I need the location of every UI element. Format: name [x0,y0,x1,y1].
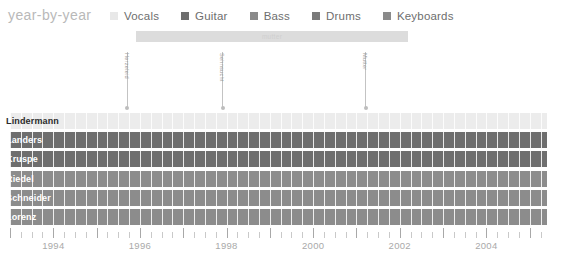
grid-tick [302,113,303,129]
grid-tick [497,151,498,167]
grid-tick [86,209,87,225]
grid-tick [443,209,444,225]
timeline-bar[interactable] [10,151,547,167]
axis-label: 1996 [129,240,151,251]
grid-tick [75,132,76,148]
grid-tick [281,113,282,129]
grid-tick [389,171,390,187]
legend: VocalsGuitarBassDrumsKeyboards [110,9,476,23]
grid-tick [75,171,76,187]
grid-tick [205,113,206,129]
timeline-bar[interactable] [10,113,547,129]
grid-tick [356,190,357,206]
grid-tick [42,209,43,225]
timeline-bar[interactable] [10,209,547,225]
grid-tick [378,171,379,187]
grid-tick [367,132,368,148]
grid-tick [162,209,163,225]
grid-tick [86,190,87,206]
grid-tick [42,171,43,187]
grid-tick [508,151,509,167]
grid-tick [324,132,325,148]
album-marker-label: Herzeleid [124,53,130,79]
grid-tick [367,209,368,225]
grid-tick [530,209,531,225]
timeline-row[interactable] [0,190,565,206]
timeline-bar[interactable] [10,190,547,206]
grid-tick [151,132,152,148]
grid-tick [432,190,433,206]
grid-tick [205,132,206,148]
chart-header: year-by-year VocalsGuitarBassDrumsKeyboa… [0,0,565,28]
axis-tick [118,232,119,238]
grid-tick [356,151,357,167]
grid-tick [172,209,173,225]
grid-tick [129,190,130,206]
axis-tick [162,232,163,238]
grid-tick [443,132,444,148]
grid-tick [140,113,141,129]
grid-tick [64,113,65,129]
grid-tick [367,113,368,129]
grid-tick [454,190,455,206]
grid-tick [530,171,531,187]
grid-tick [270,151,271,167]
grid-tick [530,132,531,148]
grid-tick [302,209,303,225]
timeline-bar[interactable] [10,171,547,187]
grid-tick [140,171,141,187]
grid-tick [432,151,433,167]
grid-tick [400,209,401,225]
axis-tick [519,232,520,238]
grid-tick [465,132,466,148]
grid-tick [291,132,292,148]
grid-tick [335,171,336,187]
grid-tick [443,113,444,129]
grid-tick [541,113,542,129]
grid-tick [97,113,98,129]
grid-tick [227,190,228,206]
timeline-row[interactable] [0,151,565,167]
grid-tick [476,132,477,148]
axis-tick [32,232,33,238]
grid-tick [237,209,238,225]
grid-tick [476,209,477,225]
grid-tick [541,209,542,225]
grid-tick [411,190,412,206]
album-span-bar: mutter [136,31,409,42]
grid-tick [129,171,130,187]
grid-tick [389,209,390,225]
grid-tick [519,151,520,167]
timeline-row[interactable] [0,171,565,187]
axis-tick [497,232,498,238]
axis-tick [541,232,542,238]
grid-tick [107,151,108,167]
grid-tick [443,190,444,206]
grid-tick [53,151,54,167]
grid-tick [291,113,292,129]
grid-tick [324,113,325,129]
grid-tick [107,132,108,148]
grid-tick [183,132,184,148]
grid-tick [237,190,238,206]
grid-tick [259,113,260,129]
grid-tick [356,132,357,148]
grid-tick [465,209,466,225]
grid-tick [64,151,65,167]
grid-tick [248,209,249,225]
grid-tick [367,190,368,206]
grid-tick [75,190,76,206]
timeline-bar[interactable] [10,132,547,148]
grid-tick [183,113,184,129]
grid-tick [443,171,444,187]
grid-tick [259,151,260,167]
timeline-row[interactable] [0,113,565,129]
timeline-row[interactable] [0,209,565,225]
timeline-row[interactable] [0,132,565,148]
grid-tick [194,132,195,148]
grid-tick [400,132,401,148]
grid-tick [541,171,542,187]
axis-tick [194,232,195,238]
row-label-riedel: Riedel [6,174,34,184]
grid-tick [421,190,422,206]
